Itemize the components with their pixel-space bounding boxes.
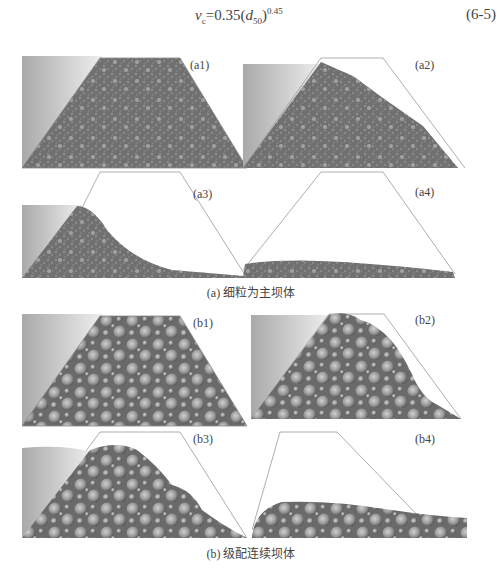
equation-formula: vc=0.35(d50)0.45 (195, 6, 283, 26)
caption-b: (b) 级配连续坝体 (0, 544, 502, 562)
panel-label-b1: (b1) (193, 316, 213, 331)
panel-label-b3: (b3) (193, 432, 213, 447)
panel-b1 (22, 314, 247, 428)
panel-label-a1: (a1) (190, 58, 209, 73)
dam-simulation-a1 (22, 56, 247, 171)
dam-simulation-b2 (251, 312, 466, 422)
panel-label-a3: (a3) (193, 187, 212, 202)
panel-a3 (22, 170, 247, 282)
panel-a2 (243, 56, 465, 171)
dam-simulation-a2 (243, 56, 465, 171)
panel-a1 (22, 56, 247, 171)
panel-label-a4: (a4) (415, 185, 434, 200)
dam-simulation-b1 (22, 314, 247, 428)
dam-simulation-b3 (22, 430, 247, 542)
caption-a: (a) 细粒为主坝体 (0, 283, 502, 301)
eq-lhs: v (195, 7, 202, 23)
equation-row: vc=0.35(d50)0.45 (6-5) (0, 2, 502, 30)
eq-var-sub: 50 (253, 16, 262, 26)
panel-label-b4: (b4) (415, 432, 435, 447)
panel-label-a2: (a2) (415, 58, 434, 73)
panel-b2 (251, 312, 466, 422)
eq-exp: 0.45 (267, 6, 283, 16)
eq-coef: =0.35( (206, 7, 246, 23)
eq-var: d (245, 7, 253, 23)
panel-label-b2: (b2) (415, 313, 435, 328)
panel-b3 (22, 430, 247, 542)
equation-number: (6-5) (466, 6, 496, 23)
dam-simulation-a3 (22, 170, 247, 282)
